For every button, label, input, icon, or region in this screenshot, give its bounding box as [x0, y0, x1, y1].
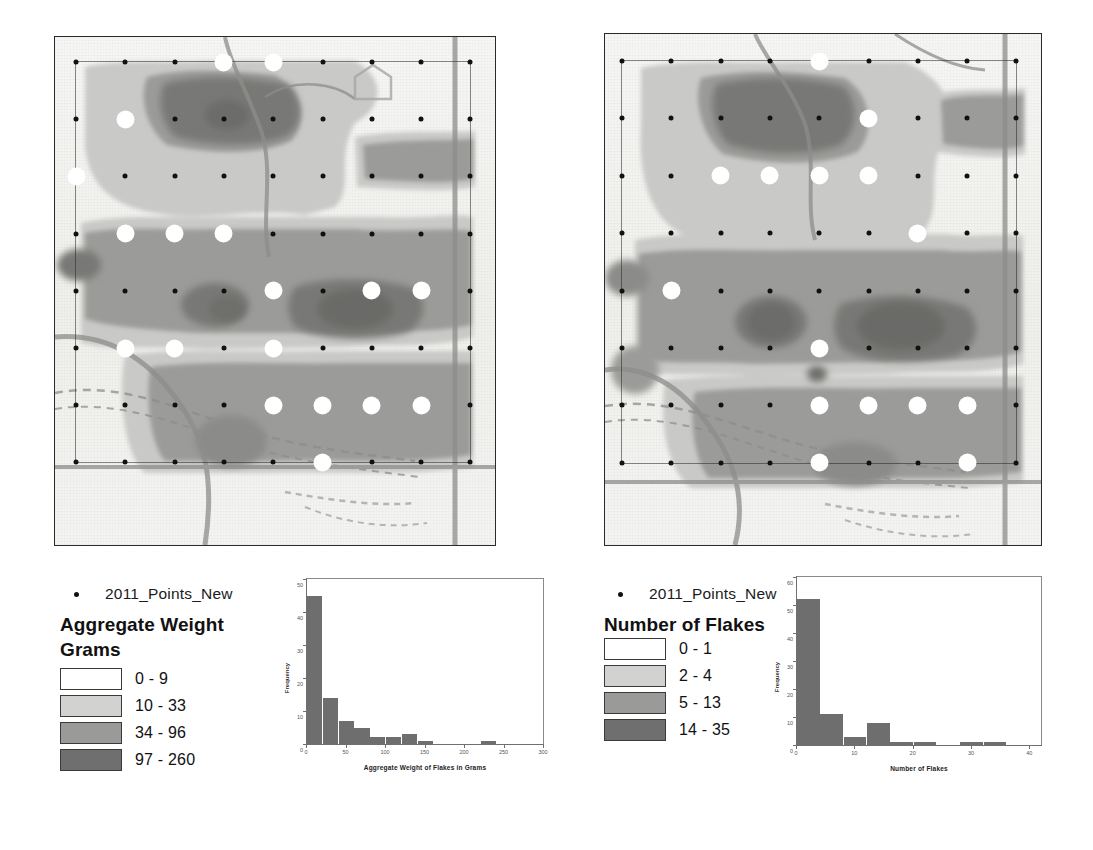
tick-mark [793, 577, 796, 578]
sample-point [419, 174, 424, 179]
histogram-bar [844, 737, 867, 745]
histogram-y-axis-label: Frequency [774, 662, 780, 692]
sample-point [172, 231, 177, 236]
sample-point [866, 59, 871, 64]
aggregate-weight-map-panel [54, 36, 496, 546]
tick-label: 20 [297, 681, 303, 687]
tick-label: 300 [538, 749, 547, 755]
tick-label: 0 [300, 747, 303, 753]
tick-mark [1029, 746, 1030, 749]
sample-point [320, 117, 325, 122]
legend-class-label: 0 - 1 [679, 640, 712, 658]
tick-label: 30 [787, 664, 793, 670]
sample-point [221, 117, 226, 122]
sample-point [172, 403, 177, 408]
tick-label: 50 [297, 582, 303, 588]
sample-point [669, 173, 674, 178]
sample-point [221, 403, 226, 408]
sample-point [419, 231, 424, 236]
histogram-bar [984, 742, 1007, 745]
sample-point [866, 173, 871, 178]
histogram-bar [323, 698, 338, 744]
sample-point [468, 460, 473, 465]
sample-point [468, 174, 473, 179]
sample-point [123, 117, 128, 122]
sample-point [320, 346, 325, 351]
histogram-bar [914, 742, 937, 745]
figure-page: 2011_Points_New Aggregate Weight Grams 0… [0, 0, 1093, 850]
sample-point [915, 460, 920, 465]
histogram-x-axis-label: Number of Flakes [796, 765, 1042, 772]
sample-point [271, 174, 276, 179]
sample-point [369, 346, 374, 351]
sample-point [718, 288, 723, 293]
sample-point [669, 403, 674, 408]
sample-point [123, 231, 128, 236]
sample-point [915, 116, 920, 121]
legend-class-label: 5 - 13 [679, 694, 721, 712]
sample-point [965, 403, 970, 408]
sample-point [767, 460, 772, 465]
tick-label: 10 [297, 714, 303, 720]
sample-point [669, 460, 674, 465]
tick-mark [543, 745, 544, 748]
legend-swatch [604, 665, 666, 687]
legend-swatch [604, 692, 666, 714]
histogram-bar [890, 742, 913, 745]
tick-mark [793, 717, 796, 718]
sample-point [221, 174, 226, 179]
sample-point [468, 117, 473, 122]
sample-point [369, 460, 374, 465]
sample-point [817, 288, 822, 293]
sample-point [767, 231, 772, 236]
sample-point [74, 60, 79, 65]
tick-mark [854, 746, 855, 749]
sample-point [718, 460, 723, 465]
sample-point [1014, 403, 1019, 408]
tick-label: 250 [499, 749, 508, 755]
sample-point [369, 174, 374, 179]
histogram-bar [339, 721, 354, 744]
tick-mark [793, 605, 796, 606]
histogram-x-axis-label: Aggregate Weight of Flakes in Grams [306, 764, 544, 771]
tick-label: 50 [342, 749, 348, 755]
tick-mark [793, 689, 796, 690]
sample-point [817, 346, 822, 351]
tick-mark [303, 645, 306, 646]
sample-point [172, 174, 177, 179]
legend-point-layer-label: 2011_Points_New [105, 585, 233, 603]
histogram-bar [370, 737, 385, 744]
sample-point [172, 60, 177, 65]
sample-point [620, 403, 625, 408]
sample-point [74, 174, 79, 179]
tick-label: 150 [420, 749, 429, 755]
legend-class-row: 0 - 9 [60, 668, 270, 690]
sample-point [620, 288, 625, 293]
sample-point [718, 59, 723, 64]
tick-mark [303, 711, 306, 712]
sample-point [620, 346, 625, 351]
sample-point [620, 460, 625, 465]
number-of-flakes-map-panel [604, 33, 1042, 546]
tick-label: 0 [794, 750, 797, 756]
legend-class-list: 0 - 910 - 3334 - 9697 - 260 [60, 668, 270, 771]
sample-point [866, 116, 871, 121]
sample-point [915, 403, 920, 408]
legend-swatch [604, 638, 666, 660]
tick-mark [464, 745, 465, 748]
tick-label: 100 [380, 749, 389, 755]
sample-point [74, 231, 79, 236]
sample-point [620, 231, 625, 236]
tick-mark [913, 746, 914, 749]
sample-point [817, 116, 822, 121]
point-marker-icon [618, 592, 623, 597]
histogram-bar [354, 728, 369, 745]
tick-label: 40 [297, 615, 303, 621]
sample-point [1014, 59, 1019, 64]
sample-point [320, 288, 325, 293]
sample-point [767, 116, 772, 121]
sample-point [271, 460, 276, 465]
sample-point [718, 173, 723, 178]
sample-point [369, 231, 374, 236]
sample-point [74, 403, 79, 408]
